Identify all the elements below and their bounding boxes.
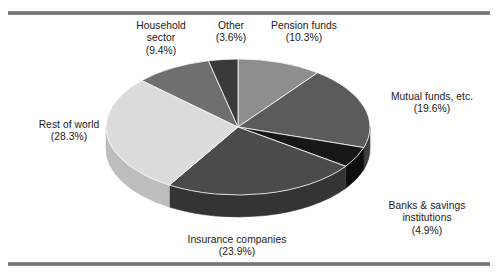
slice-label-line: Rest of world (14, 119, 124, 131)
slice-label-percent: (3.6%) (203, 32, 259, 44)
slice-label-line: Banks & savings (361, 200, 493, 212)
slice-label-line: institutions (361, 212, 493, 224)
slice-label-line: Household (118, 20, 204, 32)
slice-label-line: Insurance companies (152, 234, 322, 246)
slice-label-percent: (4.9%) (361, 225, 493, 237)
pie-chart-figure: Household sector (9.4%) Other (3.6%) Pen… (0, 0, 499, 277)
slice-label-percent: (10.3%) (252, 32, 356, 44)
slice-label-banks-savings-institutions: Banks & savings institutions (4.9%) (361, 200, 493, 237)
slice-label-percent: (9.4%) (118, 45, 204, 57)
slice-label-line: sector (118, 32, 204, 44)
slice-label-household-sector: Household sector (9.4%) (118, 20, 204, 57)
slice-label-percent: (23.9%) (152, 246, 322, 258)
slice-label-percent: (19.6%) (372, 103, 492, 115)
slice-label-percent: (28.3%) (14, 131, 124, 143)
slice-label-pension-funds: Pension funds (10.3%) (252, 20, 356, 45)
slice-label-rest-of-world: Rest of world (28.3%) (14, 119, 124, 144)
pie-top-faces (106, 59, 370, 195)
slice-label-insurance-companies: Insurance companies (23.9%) (152, 234, 322, 259)
slice-label-line: Pension funds (252, 20, 356, 32)
slice-label-other: Other (3.6%) (203, 20, 259, 45)
slice-label-mutual-funds: Mutual funds, etc. (19.6%) (372, 91, 492, 116)
slice-label-line: Other (203, 20, 259, 32)
slice-label-line: Mutual funds, etc. (372, 91, 492, 103)
